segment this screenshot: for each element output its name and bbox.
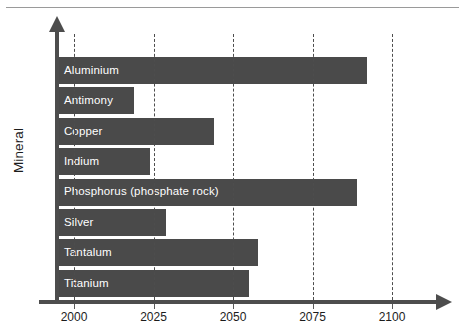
bar-copper: Copper bbox=[55, 118, 214, 145]
bar-label: Antimony bbox=[55, 95, 113, 107]
bar-chart: Mineral AluminiumAntimonyCopperIndiumPho… bbox=[0, 0, 465, 336]
y-axis-arrow-icon bbox=[49, 16, 65, 32]
bar-antimony: Antimony bbox=[55, 87, 135, 114]
bar-label: Titanium bbox=[55, 278, 109, 290]
gridline-2025 bbox=[154, 34, 155, 300]
bar-label: Aluminium bbox=[55, 65, 119, 77]
bar-label: Tantalum bbox=[55, 247, 112, 259]
bar-label: Indium bbox=[55, 156, 99, 168]
gridline-2000 bbox=[74, 34, 75, 300]
x-tick-2050 bbox=[233, 304, 234, 309]
x-tick-2075 bbox=[313, 304, 314, 309]
x-axis-arrow-icon bbox=[436, 294, 452, 310]
bar-label: Copper bbox=[55, 126, 103, 138]
x-tick-2100 bbox=[392, 304, 393, 309]
bar-label: Phosphorus (phosphate rock) bbox=[55, 186, 219, 198]
bar-silver: Silver bbox=[55, 209, 166, 236]
gridline-2050 bbox=[233, 34, 234, 300]
gridline-2075 bbox=[313, 34, 314, 300]
x-tick-label-2025: 2025 bbox=[124, 310, 184, 324]
x-tick-label-2100: 2100 bbox=[362, 310, 422, 324]
gridline-2100 bbox=[392, 34, 393, 300]
bar-aluminium: Aluminium bbox=[55, 57, 367, 84]
x-tick-2000 bbox=[74, 304, 75, 309]
x-tick-label-2075: 2075 bbox=[283, 310, 343, 324]
x-tick-label-2000: 2000 bbox=[44, 310, 104, 324]
x-tick-label-2050: 2050 bbox=[203, 310, 263, 324]
bar-indium: Indium bbox=[55, 148, 150, 175]
bar-titanium: Titanium bbox=[55, 270, 249, 297]
y-axis-line bbox=[55, 30, 59, 303]
x-axis-line bbox=[39, 300, 439, 304]
x-tick-2025 bbox=[154, 304, 155, 309]
bar-tantalum: Tantalum bbox=[55, 239, 259, 266]
